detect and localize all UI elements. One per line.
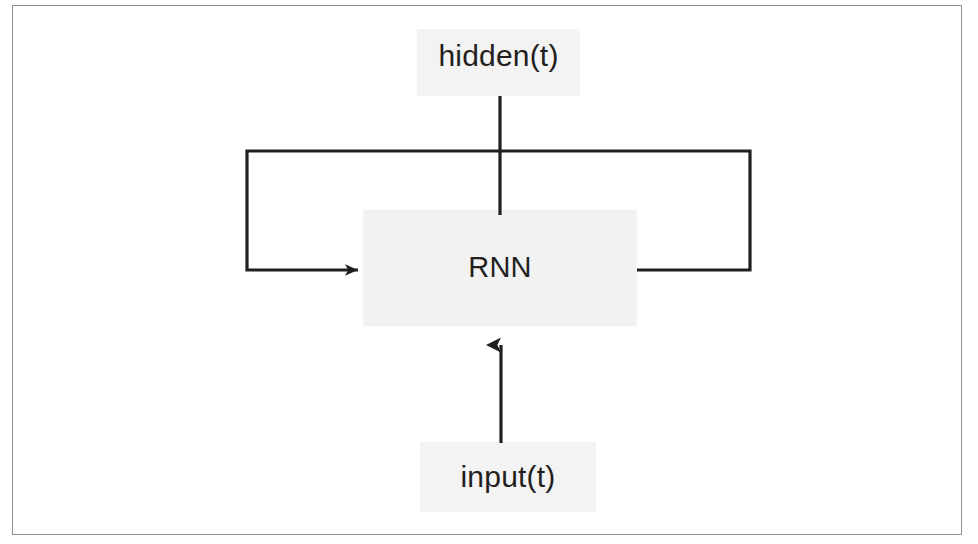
input-signal-label: input(t)	[420, 458, 596, 496]
hidden-state-label: hidden(t)	[417, 37, 580, 75]
figure-root: hidden(t) RNN input(t)	[0, 0, 978, 544]
rnn-block-label: RNN	[363, 250, 637, 284]
